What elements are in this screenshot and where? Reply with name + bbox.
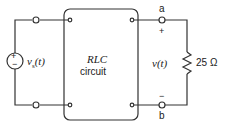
box-subtitle: circuit: [80, 67, 106, 77]
terminal-left-bottom: [33, 102, 39, 108]
box-title: RLC: [87, 54, 107, 65]
output-wire-top: [134, 20, 187, 52]
terminal-left-top: [33, 17, 39, 23]
minus-label: −: [159, 92, 164, 101]
box-terminal-rt: [130, 18, 134, 22]
terminal-a-label: a: [159, 4, 165, 14]
plus-label: +: [159, 27, 164, 36]
terminal-b-label: b: [159, 111, 165, 121]
source-wire: [15, 20, 68, 53]
box-terminal-lt: [68, 18, 72, 22]
terminal-b: [159, 102, 165, 108]
source-label: vs(t): [27, 56, 45, 70]
box-terminal-rb: [130, 103, 134, 107]
resistor-value: 25 Ω: [196, 58, 217, 68]
box-terminal-lb: [68, 103, 72, 107]
resistor-zigzag: [183, 52, 191, 74]
source-minus: −: [12, 60, 17, 69]
source-wire-bottom: [15, 69, 68, 105]
terminal-a: [159, 17, 165, 23]
output-voltage-label: v(t): [152, 58, 167, 69]
